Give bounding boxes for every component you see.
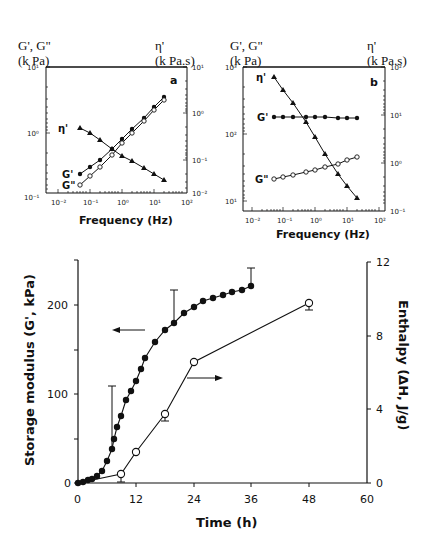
panel-b-xtick: 10² [374,217,386,225]
panel-b-ytick-right: 10⁻¹ [390,208,406,216]
panel-a-left-axis-title: G', G" [18,38,51,53]
bottom-xlabel: Time (h) [196,515,257,530]
bottom-xtick: 12 [129,493,143,506]
panel-b-g-double-prime-markers [272,155,359,181]
panel-b-g-prime-markers [272,115,359,120]
storage-modulus-markers [75,283,254,486]
bottom-ytick-left: 100 [47,388,68,401]
panel-a-g-double-prime-label: G" [62,180,75,191]
panel-b-xlabel: Frequency (Hz) [276,228,370,241]
panel-a-xtick: 10¹ [149,199,161,207]
panel-b-x-ticks [252,207,379,211]
panel-a: G', G" (k Pa) η' (k Pa.s) 10¹ 10⁰ 10⁻¹ 1… [18,38,208,227]
panel-b: G', G" (k Pa) η' (k Pa.s) 10³ 10² 10¹ 10… [225,38,407,241]
panel-a-xtick: 10² [181,199,193,207]
bottom-ytick-left: 0 [64,477,71,490]
panel-a-ytick-right: 10⁰ [192,110,204,118]
panel-b-right-ticks [381,67,385,203]
panel-a-right-axis-unit: (k Pa.s) [155,53,195,68]
bottom-ytick-right: 12 [376,256,390,269]
panel-a-g-prime-markers [78,95,166,176]
panel-a-xtick: 10⁻² [51,199,67,207]
panel-b-xtick: 10⁻¹ [277,217,293,225]
panel-a-g-prime-label: G' [62,169,73,180]
panel-b-right-axis-title: η' [367,38,376,53]
panel-a-ytick-right: 10⁻² [192,190,208,198]
panel-b-xtick: 10⁻² [245,217,261,225]
panel-b-g-double-prime-label: G" [255,174,268,185]
panel-b-xtick: 10¹ [342,217,354,225]
panel-b-ytick-left: 10² [225,131,237,139]
panel-a-xtick: 10⁰ [117,199,129,207]
panel-b-ytick-right: 10⁰ [390,160,402,168]
bottom-xtick: 48 [302,493,316,506]
bottom-ylabel-left: Storage modulus (G', kPa) [22,274,37,466]
figure: G', G" (k Pa) η' (k Pa.s) 10¹ 10⁰ 10⁻¹ 1… [0,0,436,556]
storage-modulus-line [78,286,251,483]
panel-b-ytick-right: 10¹ [390,112,402,120]
panel-b-left-ticks [243,67,247,201]
panel-b-ytick-left: 10³ [225,64,237,72]
enthalpy-markers [117,299,312,477]
panel-b-xtick: 10⁰ [310,217,322,225]
panel-a-right-axis-title: η' [155,38,164,53]
panel-a-label: a [170,74,177,87]
panel-a-ytick-left: 10¹ [27,64,39,72]
panel-a-eta-label: η' [58,123,68,134]
panel-a-xtick: 10⁻¹ [83,199,99,207]
bottom-xtick: 24 [187,493,201,506]
panel-a-ytick-left: 10⁻¹ [24,194,40,202]
panel-b-eta-markers [271,74,360,200]
panel-a-left-ticks [46,67,50,189]
bottom-ylabel-right: Enthalpy (ΔH, J/g) [396,300,411,430]
bottom-xtick: 60 [360,493,374,506]
bottom-ytick-left: 200 [47,299,68,312]
storage-modulus-error-bars [108,268,255,449]
panel-b-ytick-left: 10¹ [225,198,237,206]
right-arrow-icon [187,375,223,381]
panel-a-xlabel: Frequency (Hz) [79,214,173,227]
bottom-ytick-right: 4 [376,403,383,416]
panel-b-label: b [370,76,378,89]
bottom-ytick-right: 0 [376,477,383,490]
panel-a-right-ticks [183,67,187,188]
left-arrow-icon [112,327,145,333]
bottom-chart: 0 100 200 0 12 24 36 48 60 Time (h) 12 8… [22,256,411,530]
panel-b-left-axis-title: G', G" [230,38,263,53]
panel-a-g-prime-line [80,97,164,174]
panel-a-ytick-right: 10¹ [192,64,204,72]
panel-b-eta-label: η' [256,72,266,83]
bottom-xtick: 36 [244,493,258,506]
bottom-xtick: 0 [74,493,81,506]
panel-b-ytick-right: 10² [390,64,402,72]
bottom-ytick-right: 8 [376,330,383,343]
panel-a-x-ticks [58,189,182,193]
panel-b-g-prime-label: G' [257,112,268,123]
panel-a-ytick-left: 10⁰ [27,130,39,138]
enthalpy-error-bars [117,303,313,482]
panel-a-ytick-right: 10⁻¹ [192,157,208,165]
